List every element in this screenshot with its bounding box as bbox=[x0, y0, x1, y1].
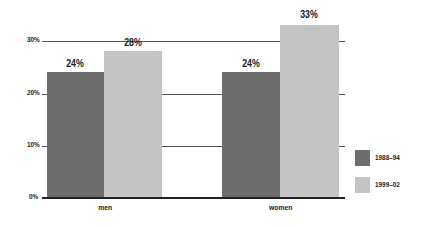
bar-value: 24% bbox=[67, 57, 85, 69]
bar-value: 24% bbox=[242, 57, 260, 69]
bar-label-women-1999-02: 33% bbox=[280, 8, 339, 20]
bar-chart: 30% 20% 10% 0% 24% 28% 24% 33% men women… bbox=[0, 0, 422, 227]
bar-women-1988-94 bbox=[222, 72, 280, 198]
bar-men-1988-94 bbox=[47, 72, 104, 198]
y-tick-30: 30% bbox=[27, 35, 40, 44]
bar-value: 28% bbox=[124, 36, 142, 48]
category-text: men bbox=[98, 203, 112, 212]
y-tick-0: 0% bbox=[29, 192, 38, 201]
x-axis-baseline bbox=[42, 197, 345, 199]
legend-swatch-1999-02 bbox=[355, 177, 370, 193]
bar-label-women-1988-94: 24% bbox=[222, 57, 280, 69]
y-tick-20: 20% bbox=[27, 88, 40, 97]
bar-value: 33% bbox=[301, 8, 319, 20]
legend-swatch-1988-94 bbox=[355, 150, 370, 166]
category-text: women bbox=[269, 203, 292, 212]
legend-label-1988-94: 1988–94 bbox=[375, 153, 400, 162]
category-label-men: men bbox=[75, 203, 135, 212]
category-label-women: women bbox=[250, 203, 312, 212]
bar-label-men-1988-94: 24% bbox=[47, 57, 104, 69]
bar-men-1999-02 bbox=[104, 51, 162, 198]
bar-label-men-1999-02: 28% bbox=[104, 36, 162, 48]
legend-label-1999-02: 1999–02 bbox=[375, 180, 400, 189]
y-tick-10: 10% bbox=[27, 140, 40, 149]
bar-women-1999-02 bbox=[280, 25, 339, 198]
